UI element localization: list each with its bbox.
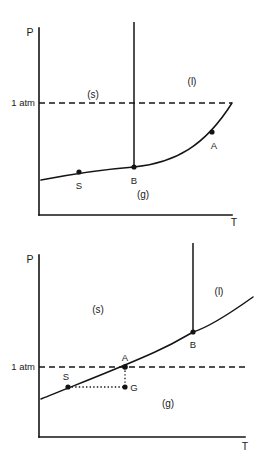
top-gas-phase-label: (g) xyxy=(137,189,149,200)
bottom-point-g-label: G xyxy=(130,382,137,393)
top-liquid-phase-label: (l) xyxy=(188,76,197,87)
top-point-b-label: B xyxy=(131,175,137,186)
phase-diagram-figure: P T 1 atm (s) (l) (g) S B A P T 1 atm xyxy=(0,0,271,458)
bottom-one-atm-tick-label: 1 atm xyxy=(11,361,35,372)
bottom-point-b-label: B xyxy=(190,339,196,350)
bottom-phase-boundary-curve xyxy=(41,297,253,399)
bottom-point-s-label: S xyxy=(63,371,69,382)
bottom-point-a-label: A xyxy=(122,352,129,363)
top-point-s-marker xyxy=(76,169,81,174)
bottom-phase-diagram: P T 1 atm (s) (l) (g) S A G B xyxy=(0,229,271,458)
top-point-a-label: A xyxy=(211,140,218,151)
top-one-atm-tick-label: 1 atm xyxy=(11,97,35,108)
top-point-s-label: S xyxy=(76,180,82,191)
bottom-gas-phase-label: (g) xyxy=(162,398,174,409)
top-point-b-marker xyxy=(131,164,136,169)
bottom-point-b-marker xyxy=(190,329,195,334)
bottom-point-s-marker xyxy=(65,384,70,389)
bottom-point-a-marker xyxy=(122,364,128,370)
top-point-a-marker xyxy=(209,129,214,134)
bottom-solid-phase-label: (s) xyxy=(92,304,104,315)
top-phase-diagram: P T 1 atm (s) (l) (g) S B A xyxy=(0,0,271,229)
bottom-y-axis-label: P xyxy=(26,253,33,265)
bottom-point-g-marker xyxy=(122,384,127,389)
bottom-liquid-phase-label: (l) xyxy=(215,286,224,297)
top-y-axis-label: P xyxy=(26,26,33,38)
top-phase-boundary-curve xyxy=(41,103,232,180)
top-x-axis-label: T xyxy=(231,216,238,228)
bottom-x-axis-label: T xyxy=(242,440,249,452)
top-solid-phase-label: (s) xyxy=(87,89,99,100)
